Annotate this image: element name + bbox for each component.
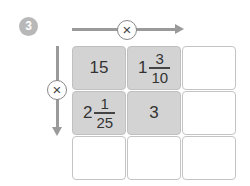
answer-cell-r3c1[interactable] xyxy=(72,136,126,180)
arrow-right-icon xyxy=(175,24,184,34)
multiplication-grid: 15 1 3 10 2 1 25 3 xyxy=(72,46,237,181)
denominator: 10 xyxy=(149,70,170,85)
cell-value: 15 xyxy=(90,58,109,78)
multiply-circle-icon: × xyxy=(47,80,67,100)
fraction: 1 25 xyxy=(94,96,115,129)
mixed-number: 1 3 10 xyxy=(138,51,170,84)
grid-cell-r2c1: 2 1 25 xyxy=(72,91,126,135)
problem-number-badge: 3 xyxy=(19,17,38,36)
denominator: 25 xyxy=(94,115,115,130)
answer-cell-r3c3[interactable] xyxy=(182,136,236,180)
numerator: 1 xyxy=(99,96,111,111)
numerator: 3 xyxy=(154,51,166,66)
grid-cell-r1c1: 15 xyxy=(72,46,126,90)
whole-part: 2 xyxy=(83,103,92,123)
answer-cell-r1c3[interactable] xyxy=(182,46,236,90)
arrow-down-icon xyxy=(52,127,62,136)
answer-cell-r2c3[interactable] xyxy=(182,91,236,135)
fraction: 3 10 xyxy=(149,51,170,84)
multiply-circle-icon: × xyxy=(117,20,137,40)
grid-cell-r1c2: 1 3 10 xyxy=(127,46,181,90)
cell-value: 3 xyxy=(149,103,158,123)
whole-part: 1 xyxy=(138,58,147,78)
grid-cell-r2c2: 3 xyxy=(127,91,181,135)
mixed-number: 2 1 25 xyxy=(83,96,115,129)
answer-cell-r3c2[interactable] xyxy=(127,136,181,180)
